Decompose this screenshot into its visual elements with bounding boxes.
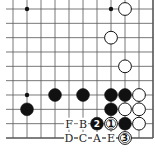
star-point-icon [25,7,29,11]
move-number: 3 [122,133,128,143]
white-stone [133,89,146,102]
white-stone [119,3,132,16]
black-stone [105,89,118,102]
black-stone [21,103,34,116]
position-label-e: E [107,132,115,145]
position-label-f: F [65,118,73,131]
go-board-diagram: FBDCAE 213 [0,0,155,153]
white-stone [105,31,118,44]
star-point-icon [109,7,113,11]
white-stone [119,60,132,73]
move-number: 2 [94,119,100,129]
black-stone [49,89,62,102]
position-label-a: A [92,132,102,145]
white-stone [133,117,146,130]
white-stone [119,103,132,116]
star-point-icon [25,93,29,97]
white-stone-1: 1 [105,117,118,130]
white-stone-3: 3 [119,132,132,145]
position-label-d: D [65,132,74,145]
white-stone [133,103,146,116]
position-label-b: B [79,118,87,131]
black-stone [119,117,132,130]
black-stone [119,89,132,102]
black-stone [77,89,90,102]
position-label-c: C [79,132,87,145]
black-stone-2: 2 [91,117,104,130]
black-stone [105,103,118,116]
move-number: 1 [108,119,114,129]
